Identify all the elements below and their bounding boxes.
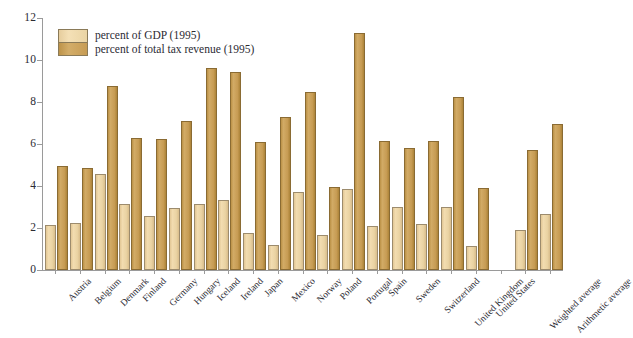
x-axis-tick xyxy=(129,270,130,274)
bar xyxy=(540,214,551,270)
y-axis-tick xyxy=(37,270,42,271)
bar-group xyxy=(293,18,316,270)
bar xyxy=(428,141,439,270)
y-axis-tick-label: 4 xyxy=(10,180,36,192)
y-axis-tick-label: 12 xyxy=(10,12,36,24)
bar xyxy=(404,148,415,270)
bar xyxy=(317,235,328,270)
bar xyxy=(95,174,106,270)
bar xyxy=(70,223,81,270)
bar xyxy=(367,226,378,270)
bar xyxy=(379,141,390,270)
y-axis-tick xyxy=(37,60,42,61)
x-axis-tick xyxy=(303,270,304,274)
x-axis-tick xyxy=(402,270,403,274)
bar xyxy=(45,225,56,270)
y-axis-tick xyxy=(37,228,42,229)
x-axis-tick-label: Belgium xyxy=(92,276,122,306)
y-axis-tick xyxy=(37,18,42,19)
x-axis-tick xyxy=(476,270,477,274)
y-axis-tick xyxy=(37,102,42,103)
bar-group xyxy=(466,18,489,270)
bar-group xyxy=(392,18,415,270)
bar xyxy=(416,224,427,270)
x-axis-tick xyxy=(278,270,279,274)
x-axis-tick xyxy=(80,270,81,274)
bar xyxy=(441,207,452,270)
x-axis-tick xyxy=(525,270,526,274)
bar xyxy=(156,139,167,270)
bar xyxy=(181,121,192,270)
bar xyxy=(342,189,353,270)
x-axis-tick-label: Arithmetic average xyxy=(575,276,633,335)
bar xyxy=(453,97,464,270)
bar xyxy=(218,200,229,270)
x-axis-tick-label: Austria xyxy=(66,276,93,303)
x-axis-tick xyxy=(228,270,229,274)
y-axis-tick-label: 0 xyxy=(10,264,36,276)
x-axis-tick-label: Sweden xyxy=(413,276,441,304)
bar xyxy=(255,142,266,270)
legend-label-gdp: percent of GDP (1995) xyxy=(95,29,254,43)
x-axis-tick xyxy=(105,270,106,274)
x-axis-tick xyxy=(55,270,56,274)
x-axis-tick xyxy=(451,270,452,274)
y-axis-tick-label: 8 xyxy=(10,96,36,108)
bar xyxy=(354,33,365,270)
bar xyxy=(515,230,526,270)
bar-group xyxy=(416,18,439,270)
chart-legend: percent of GDP (1995) percent of total t… xyxy=(58,29,254,56)
bar xyxy=(119,204,130,270)
bar-group xyxy=(367,18,390,270)
y-axis-tick-label: 2 xyxy=(10,222,36,234)
bar xyxy=(194,204,205,270)
bar xyxy=(230,72,241,270)
bar xyxy=(466,246,477,270)
bar xyxy=(552,124,563,270)
bar-group xyxy=(268,18,291,270)
bar xyxy=(305,92,316,271)
legend-label-list: percent of GDP (1995) percent of total t… xyxy=(95,29,254,56)
bar xyxy=(478,188,489,270)
bar xyxy=(293,192,304,270)
bar xyxy=(329,187,340,270)
bar-group xyxy=(491,18,514,270)
legend-label-tax-revenue: percent of total tax revenue (1995) xyxy=(95,43,254,57)
x-axis-tick xyxy=(327,270,328,274)
x-axis-tick xyxy=(550,270,551,274)
bar-group xyxy=(441,18,464,270)
bar xyxy=(57,166,68,270)
y-axis-tick xyxy=(37,186,42,187)
bar xyxy=(527,150,538,270)
bar xyxy=(131,138,142,270)
bar xyxy=(392,207,403,270)
x-axis-tick xyxy=(426,270,427,274)
x-axis-tick-label: Norway xyxy=(315,276,344,305)
x-axis-tick xyxy=(377,270,378,274)
x-axis-tick-label: Switzerland xyxy=(443,276,482,315)
y-axis-tick xyxy=(37,144,42,145)
x-axis-tick xyxy=(501,270,502,274)
x-axis-tick-label: Weighted average xyxy=(548,276,603,331)
bar-group xyxy=(317,18,340,270)
x-axis-tick-label: Ireland xyxy=(239,276,265,302)
x-axis-tick xyxy=(179,270,180,274)
bar xyxy=(107,86,118,270)
bar xyxy=(268,245,279,270)
legend-swatch-box xyxy=(58,29,88,56)
bar-group xyxy=(342,18,365,270)
bar xyxy=(144,216,155,270)
x-axis-tick xyxy=(253,270,254,274)
bar xyxy=(206,68,217,270)
y-axis-tick-label: 10 xyxy=(10,54,36,66)
y-axis-tick-label: 6 xyxy=(10,138,36,150)
bar xyxy=(82,168,93,270)
x-axis-tick-label: Japan xyxy=(262,276,284,298)
legend-swatch-tax-revenue xyxy=(59,43,87,56)
bar xyxy=(243,233,254,270)
bar xyxy=(280,117,291,270)
bar-group xyxy=(540,18,563,270)
x-axis-tick xyxy=(204,270,205,274)
x-axis-tick xyxy=(154,270,155,274)
